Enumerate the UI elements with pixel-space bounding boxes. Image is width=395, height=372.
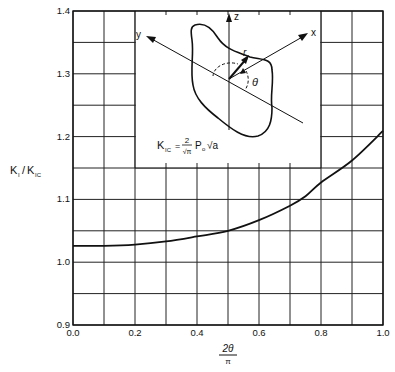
y-tick-label: 1.4 bbox=[57, 5, 70, 16]
x-tick-label: 1.0 bbox=[376, 327, 389, 338]
y-tick-label: 1.2 bbox=[57, 131, 70, 142]
y-label-k1: K bbox=[10, 164, 18, 176]
z-axis-label: z bbox=[234, 11, 239, 22]
y-tick-labels: 0.91.01.11.21.31.4 bbox=[57, 5, 70, 330]
x-label-numerator: 2θ bbox=[222, 343, 235, 354]
x-tick-label: 0.6 bbox=[252, 327, 265, 338]
x-label-denominator: π bbox=[225, 357, 231, 366]
y-label-slash: / bbox=[22, 164, 26, 176]
formula-numerator: 2 bbox=[185, 136, 190, 145]
x-tick-label: 0.8 bbox=[314, 327, 327, 338]
x-tick-label: 0.2 bbox=[128, 327, 141, 338]
y-tick-label: 1.1 bbox=[57, 193, 70, 204]
theta-label: θ bbox=[252, 76, 258, 88]
formula-denominator: √π bbox=[183, 148, 192, 155]
y-label-sub1: I bbox=[18, 172, 20, 178]
x-tick-labels: 0.00.20.40.60.81.0 bbox=[66, 327, 389, 338]
y-tick-label: 1.3 bbox=[57, 68, 70, 79]
x-tick-label: 0.4 bbox=[190, 327, 203, 338]
x-axis-label: x bbox=[311, 27, 316, 38]
y-axis-label: K I / K IC bbox=[10, 164, 42, 178]
y-tick-label: 1.0 bbox=[57, 256, 70, 267]
x-tick-label: 0.0 bbox=[66, 327, 79, 338]
formula-p: P bbox=[195, 140, 202, 151]
y-axis-label: y bbox=[136, 29, 141, 40]
chart: 0.91.01.11.21.31.4 0.00.20.40.60.81.0 K … bbox=[0, 0, 395, 372]
x-axis-label: 2θ π bbox=[219, 343, 237, 366]
formula-equals: = bbox=[175, 141, 180, 151]
formula-k: K bbox=[157, 139, 165, 151]
formula-k-sub: IC bbox=[165, 147, 172, 153]
y-label-sub2: IC bbox=[35, 172, 42, 178]
y-label-k2: K bbox=[27, 164, 35, 176]
formula-sqrt-a: √a bbox=[207, 140, 218, 151]
